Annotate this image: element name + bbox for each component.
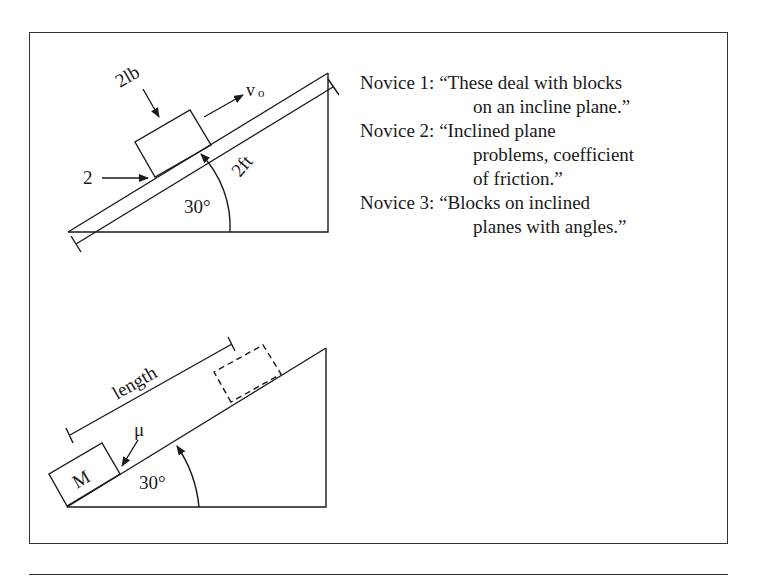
bottom-angle-arc bbox=[177, 446, 199, 507]
weight-label: 2lb bbox=[112, 61, 144, 91]
dashed-block-final-position bbox=[214, 345, 281, 402]
friction-arrow bbox=[122, 440, 138, 466]
novice-quotes: Novice 1: “These deal with blocks on an … bbox=[360, 71, 634, 239]
velocity-arrow bbox=[204, 95, 243, 117]
force-label: 2 bbox=[83, 167, 93, 188]
quote-text: “Inclined plane bbox=[439, 120, 556, 141]
quote-text: of friction.” bbox=[360, 167, 634, 191]
top-block bbox=[135, 110, 211, 177]
top-dimension-tick-left bbox=[71, 236, 81, 252]
quote-text: problems, coefficient bbox=[360, 143, 634, 167]
top-dimension-line bbox=[76, 87, 333, 244]
bottom-length-tick-left bbox=[66, 428, 73, 443]
novice-label: Novice 1: bbox=[360, 71, 434, 95]
bottom-angle-label: 30° bbox=[139, 472, 166, 493]
quote-text: “These deal with blocks bbox=[439, 72, 622, 93]
mass-label: M bbox=[69, 466, 94, 493]
quote-text: on an incline plane.” bbox=[360, 95, 634, 119]
velocity-label: v bbox=[246, 80, 255, 100]
novice-quote-3: Novice 3: “Blocks on inclined planes wit… bbox=[360, 191, 634, 239]
quote-text: “Blocks on inclined bbox=[439, 192, 590, 213]
velocity-subscript: o bbox=[258, 85, 265, 100]
top-dimension-tick-right bbox=[328, 79, 339, 95]
top-incline-diagram bbox=[68, 73, 339, 252]
quote-text: planes with angles.” bbox=[360, 215, 634, 239]
length-2ft-label: 2ft bbox=[227, 150, 257, 180]
length-label: length bbox=[109, 361, 161, 403]
novice-label: Novice 2: bbox=[360, 119, 434, 143]
novice-quote-1: Novice 1: “These deal with blocks on an … bbox=[360, 71, 634, 119]
top-angle-label: 30° bbox=[184, 196, 211, 217]
novice-label: Novice 3: bbox=[360, 191, 434, 215]
novice-quote-2: Novice 2: “Inclined plane problems, coef… bbox=[360, 119, 634, 191]
mu-label: μ bbox=[134, 419, 144, 440]
weight-arrow bbox=[143, 89, 159, 117]
bottom-length-tick-right bbox=[228, 337, 235, 351]
